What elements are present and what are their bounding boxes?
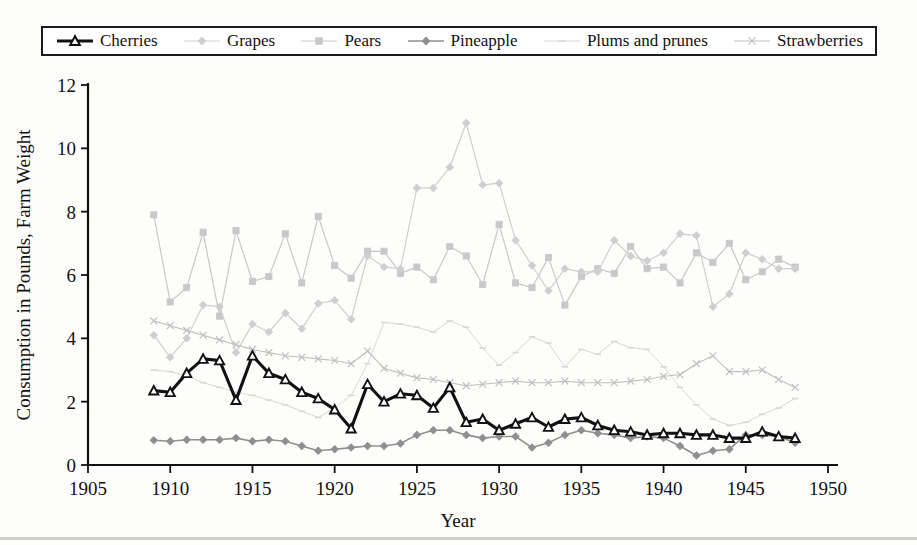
x-tick-label: 1905	[69, 478, 107, 499]
y-tick-label: 6	[67, 265, 77, 286]
y-tick-label: 10	[57, 138, 76, 159]
x-tick-label: 1925	[398, 478, 436, 499]
y-tick-label: 4	[67, 328, 77, 349]
y-tick-label: 2	[67, 392, 77, 413]
series-pineapple	[150, 427, 798, 459]
y-axis-title: Consumption in Pounds, Farm Weight	[13, 129, 34, 421]
line-chart-svg: 0246810121905191019151920192519301935194…	[0, 0, 917, 545]
x-tick-label: 1935	[562, 478, 600, 499]
page-bottom-rule	[0, 537, 917, 540]
x-tick-label: 1920	[316, 478, 354, 499]
series-strawberries	[150, 318, 798, 391]
x-tick-label: 1930	[480, 478, 518, 499]
series-cherries	[149, 351, 800, 442]
x-tick-label: 1945	[727, 478, 765, 499]
chart-page: CherriesGrapesPearsPineapplePlums and pr…	[0, 0, 917, 545]
x-tick-label: 1910	[151, 478, 189, 499]
plot-area: 0246810121905191019151920192519301935194…	[0, 0, 917, 545]
chart-axes: 0246810121905191019151920192519301935194…	[13, 75, 847, 531]
y-tick-label: 8	[67, 202, 77, 223]
series-grapes	[150, 120, 798, 361]
y-tick-label: 0	[67, 455, 77, 476]
y-tick-label: 12	[57, 75, 76, 96]
series-plums	[151, 321, 799, 426]
series-pears	[151, 212, 799, 320]
x-tick-label: 1940	[645, 478, 683, 499]
x-axis-title: Year	[440, 510, 476, 531]
x-tick-label: 1950	[809, 478, 847, 499]
x-tick-label: 1915	[233, 478, 271, 499]
